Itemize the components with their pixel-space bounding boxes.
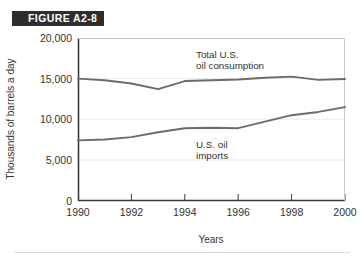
x-tick-label: 1996 bbox=[227, 206, 251, 218]
y-tick-label: 15,000 bbox=[40, 73, 72, 85]
series-annotation-label: imports bbox=[196, 150, 228, 161]
x-axis-tick-labels: 199019921994199619982000 bbox=[66, 206, 357, 218]
chart-canvas: 05,00010,00015,00020,000 199019921994199… bbox=[0, 0, 364, 258]
y-axis-tick-labels: 05,00010,00015,00020,000 bbox=[40, 32, 72, 207]
y-tick-label: 0 bbox=[66, 195, 72, 207]
y-axis-title: Thousands of barrels a day bbox=[5, 58, 16, 179]
x-tick-label: 2000 bbox=[333, 206, 357, 218]
x-tick-label: 1990 bbox=[66, 206, 90, 218]
y-tick-label: 20,000 bbox=[40, 32, 72, 44]
series-annotation-label: oil consumption bbox=[196, 60, 264, 71]
x-axis-title: Years bbox=[198, 234, 223, 245]
x-tick-label: 1994 bbox=[173, 206, 197, 218]
y-tick-label: 5,000 bbox=[46, 154, 72, 166]
series-annotation-label: Total U.S. bbox=[196, 49, 238, 60]
series-annotation-label: U.S. oil bbox=[196, 139, 228, 150]
bottom-divider bbox=[14, 252, 350, 253]
line-chart: 05,00010,00015,00020,000 199019921994199… bbox=[0, 0, 364, 258]
figure-container: FIGURE A2-8 05,00010,00015,00020,000 199… bbox=[0, 0, 364, 258]
y-tick-label: 10,000 bbox=[40, 113, 72, 125]
x-tick-label: 1998 bbox=[280, 206, 304, 218]
x-tick-label: 1992 bbox=[120, 206, 144, 218]
